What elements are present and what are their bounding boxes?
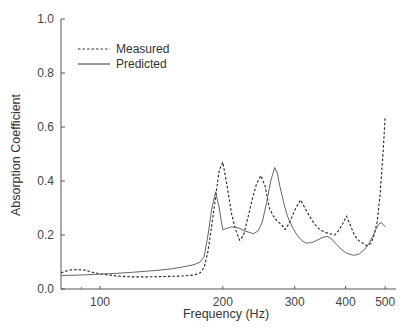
series-layer	[61, 116, 385, 277]
series-measured	[61, 116, 385, 277]
x-tick-label: 100	[90, 295, 110, 309]
x-axis: 100200300400500	[61, 286, 396, 309]
x-axis-title: Frequency (Hz)	[183, 307, 269, 321]
y-tick-label: 0.0	[37, 282, 54, 296]
y-tick-label: 0.2	[37, 228, 54, 242]
y-tick-label: 1.0	[37, 12, 54, 26]
y-axis: 0.00.20.40.60.81.0	[37, 12, 65, 296]
x-tick-label: 400	[336, 295, 356, 309]
legend-predicted-label: Predicted	[116, 57, 167, 71]
legend-measured-label: Measured	[116, 42, 169, 56]
y-tick-label: 0.4	[37, 174, 54, 188]
y-tick-label: 0.6	[37, 120, 54, 134]
absorption-chart: 0.00.20.40.60.81.0 100200300400500 Measu…	[0, 0, 415, 334]
y-axis-title: Absorption Coefficient	[9, 93, 23, 216]
series-predicted	[61, 168, 385, 276]
legend: Measured Predicted	[78, 42, 169, 71]
y-tick-label: 0.8	[37, 66, 54, 80]
x-tick-label: 300	[285, 295, 305, 309]
x-tick-label: 500	[375, 295, 395, 309]
